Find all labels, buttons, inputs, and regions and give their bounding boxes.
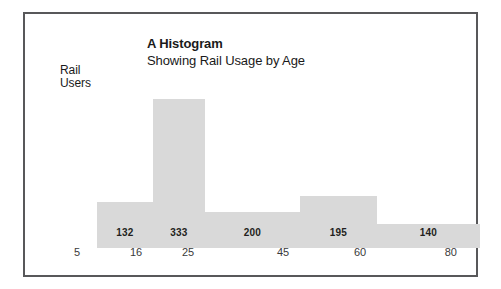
x-axis-tick-label: 45 (277, 246, 289, 258)
histogram-figure: A Histogram Showing Rail Usage by Age Ra… (0, 0, 501, 289)
x-axis-tick-label: 60 (354, 246, 366, 258)
chart-frame: A Histogram Showing Rail Usage by Age Ra… (23, 12, 478, 277)
x-axis-tick-label: 80 (445, 246, 457, 258)
x-axis-tick-label: 25 (182, 246, 194, 258)
x-axis-tick-labels: 51625456080 (25, 14, 501, 289)
x-axis-tick-label: 5 (74, 246, 80, 258)
x-axis-tick-label: 16 (130, 246, 142, 258)
